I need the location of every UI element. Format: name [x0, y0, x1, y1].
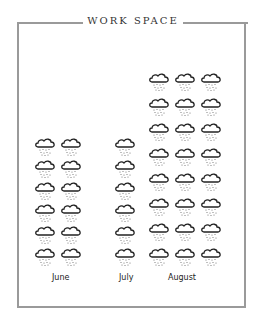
label-july: July — [119, 273, 133, 282]
rain-cloud-icon — [148, 197, 170, 215]
rain-cloud-icon — [34, 181, 56, 199]
rain-cloud-icon — [114, 225, 136, 243]
rain-cloud-icon — [60, 159, 82, 177]
rain-cloud-icon — [114, 247, 136, 265]
rain-cloud-icon — [200, 72, 222, 90]
rain-cloud-icon — [34, 225, 56, 243]
rain-cloud-icon — [174, 172, 196, 190]
rain-cloud-icon — [114, 181, 136, 199]
rain-cloud-icon — [174, 97, 196, 115]
rain-cloud-icon — [114, 203, 136, 221]
rain-cloud-icon — [34, 137, 56, 155]
rain-cloud-icon — [114, 137, 136, 155]
rain-cloud-icon — [60, 203, 82, 221]
rain-cloud-icon — [174, 122, 196, 140]
rain-cloud-icon — [114, 159, 136, 177]
label-august: August — [168, 273, 196, 282]
rain-cloud-icon — [148, 172, 170, 190]
rain-cloud-icon — [60, 181, 82, 199]
rain-cloud-icon — [148, 122, 170, 140]
rain-cloud-icon — [200, 197, 222, 215]
rain-cloud-icon — [34, 159, 56, 177]
rain-cloud-icon — [200, 247, 222, 265]
label-june: June — [52, 273, 69, 282]
rain-cloud-icon — [200, 122, 222, 140]
rain-cloud-icon — [174, 222, 196, 240]
rain-cloud-icon — [174, 72, 196, 90]
rain-cloud-icon — [34, 247, 56, 265]
rain-cloud-icon — [174, 197, 196, 215]
rain-cloud-icon — [200, 147, 222, 165]
frame-top-right — [183, 22, 248, 24]
rain-cloud-icon — [60, 225, 82, 243]
frame-top-left — [17, 22, 83, 24]
rain-cloud-icon — [148, 247, 170, 265]
rain-cloud-icon — [200, 97, 222, 115]
rain-cloud-icon — [148, 222, 170, 240]
rain-cloud-icon — [60, 247, 82, 265]
rain-cloud-icon — [200, 172, 222, 190]
rain-cloud-icon — [148, 97, 170, 115]
chart-title: WORK SPACE — [84, 15, 182, 26]
rain-cloud-icon — [34, 203, 56, 221]
rain-cloud-icon — [148, 72, 170, 90]
rain-cloud-icon — [174, 247, 196, 265]
rain-cloud-icon — [174, 147, 196, 165]
rain-cloud-icon — [200, 222, 222, 240]
rain-cloud-icon — [60, 137, 82, 155]
rain-cloud-icon — [148, 147, 170, 165]
